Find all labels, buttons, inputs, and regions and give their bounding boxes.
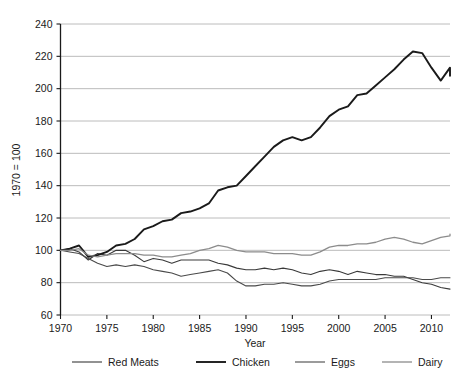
y-tick-label: 80 bbox=[41, 276, 53, 288]
x-axis-tick-labels: 197019751980198519901995200020052010 bbox=[49, 322, 443, 334]
chart-container: 6080100120140160180200220240 19701975198… bbox=[0, 0, 463, 380]
x-tick-label: 1995 bbox=[281, 322, 305, 334]
legend-label-dairy: Dairy bbox=[418, 356, 443, 368]
y-tick-label: 100 bbox=[35, 244, 53, 256]
y-axis-title: 1970 = 100 bbox=[10, 143, 22, 196]
y-tick-label: 200 bbox=[35, 82, 53, 94]
y-tick-label: 180 bbox=[35, 115, 53, 127]
x-tick-label: 2010 bbox=[420, 322, 444, 334]
x-tick-label: 2000 bbox=[327, 322, 351, 334]
x-tick-label: 1970 bbox=[49, 322, 73, 334]
x-tick-label: 1975 bbox=[95, 322, 119, 334]
x-axis-title: Year bbox=[244, 337, 266, 349]
y-tick-label: 220 bbox=[35, 50, 53, 62]
x-tick-label: 1980 bbox=[142, 322, 166, 334]
line-chart: 6080100120140160180200220240 19701975198… bbox=[0, 0, 463, 380]
legend-label-chicken: Chicken bbox=[232, 356, 270, 368]
legend-label-red-meats: Red Meats bbox=[108, 356, 159, 368]
y-tick-label: 120 bbox=[35, 212, 53, 224]
x-tick-label: 1985 bbox=[188, 322, 212, 334]
legend-label-eggs: Eggs bbox=[331, 356, 355, 368]
y-tick-label: 60 bbox=[41, 309, 53, 321]
x-tick-label: 1990 bbox=[234, 322, 258, 334]
y-tick-label: 140 bbox=[35, 179, 53, 191]
y-tick-label: 160 bbox=[35, 147, 53, 159]
y-tick-label: 240 bbox=[35, 18, 53, 30]
x-tick-label: 2005 bbox=[373, 322, 397, 334]
